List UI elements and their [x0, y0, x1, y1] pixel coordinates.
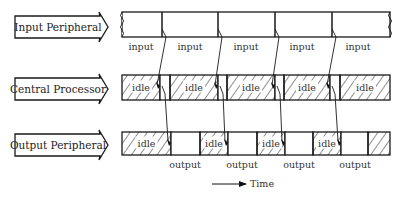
timing-diagram: Input Peripheral Central Processor Outpu…: [0, 0, 402, 197]
input-label: input: [128, 41, 153, 52]
output-label: output: [339, 159, 371, 170]
time-axis: Time: [212, 178, 274, 189]
row-label-input-peripheral: Input Peripheral: [14, 12, 108, 42]
idle-label: idle: [242, 82, 260, 93]
row-label-text: Input Peripheral: [14, 21, 102, 33]
row-label-output-peripheral: Output Peripheral: [10, 130, 108, 160]
idle-label: idle: [356, 82, 374, 93]
output-label: output: [226, 159, 258, 170]
input-label: input: [177, 41, 202, 52]
cpu-busy-segment: [218, 75, 227, 100]
time-label: Time: [250, 178, 274, 189]
output-timeline: idleidleidleidleoutputoutputoutputoutput: [122, 132, 390, 170]
row-label-central-processor: Central Processor: [10, 74, 108, 104]
output-busy-segment: [341, 132, 368, 155]
input-label: input: [233, 41, 258, 52]
output-label: output: [283, 159, 315, 170]
idle-label: idle: [132, 82, 150, 93]
output-label: output: [169, 159, 201, 170]
row-label-text: Output Peripheral: [10, 139, 107, 151]
idle-label: idle: [318, 138, 336, 149]
cpu-busy-segment: [275, 75, 284, 100]
input-label: input: [289, 41, 314, 52]
output-idle-segment: [368, 132, 390, 155]
idle-label: idle: [298, 82, 316, 93]
output-busy-segment: [228, 132, 257, 155]
input-timeline: inputinputinputinputinput: [121, 12, 392, 52]
input-label: input: [345, 41, 370, 52]
idle-label: idle: [262, 138, 280, 149]
output-busy-segment: [285, 132, 313, 155]
idle-label: idle: [205, 138, 223, 149]
idle-label: idle: [138, 138, 156, 149]
row-label-text: Central Processor: [10, 83, 107, 95]
idle-label: idle: [185, 82, 203, 93]
output-busy-segment: [171, 132, 200, 155]
